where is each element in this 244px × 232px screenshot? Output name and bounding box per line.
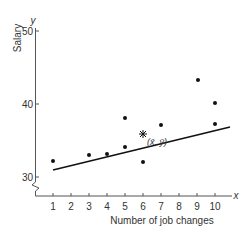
data-point bbox=[159, 123, 163, 127]
data-point bbox=[123, 145, 127, 149]
x-tick-label: 2 bbox=[68, 201, 74, 212]
y-axis bbox=[32, 28, 39, 196]
mean-point-label: (x̄, ȳ) bbox=[147, 137, 167, 147]
data-point bbox=[105, 152, 109, 156]
data-point bbox=[123, 116, 127, 120]
data-point bbox=[196, 78, 200, 82]
x-axis-title: Number of job changes bbox=[110, 215, 213, 226]
x-tick-label: 5 bbox=[122, 201, 128, 212]
data-point bbox=[213, 122, 217, 126]
x-tick-label: 3 bbox=[86, 201, 92, 212]
y-tick-label: 40 bbox=[22, 99, 34, 110]
x-tick-label: 8 bbox=[176, 201, 182, 212]
x-axis-variable: x bbox=[233, 190, 240, 201]
data-point bbox=[51, 159, 55, 163]
x-tick-label: 1 bbox=[50, 201, 56, 212]
y-tick-label: 30 bbox=[22, 172, 34, 183]
x-tick-label: 6 bbox=[140, 201, 146, 212]
x-tick-label: 7 bbox=[158, 201, 164, 212]
data-point bbox=[87, 153, 91, 157]
data-point bbox=[141, 160, 145, 164]
y-tick-label: 50 bbox=[22, 26, 34, 37]
x-tick-label: 9 bbox=[194, 201, 200, 212]
x-tick-label: 10 bbox=[209, 201, 221, 212]
y-axis-title: Salary bbox=[12, 24, 23, 52]
scatter-chart: 50 40 30 1 2 3 4 5 6 7 8 9 10 y x Salary… bbox=[0, 0, 244, 232]
data-point bbox=[213, 101, 217, 105]
y-axis-variable: y bbox=[30, 15, 37, 26]
regression-line bbox=[53, 127, 230, 170]
x-axis bbox=[36, 193, 233, 196]
mean-point-asterisk-icon bbox=[139, 130, 147, 138]
x-tick-label: 4 bbox=[104, 201, 110, 212]
